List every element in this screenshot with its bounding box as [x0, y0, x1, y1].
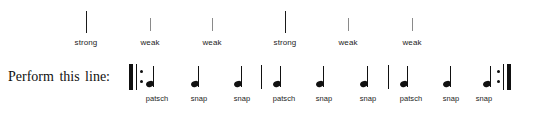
accent-label: strong [274, 38, 297, 47]
accent-tick-weak [150, 18, 151, 31]
accent-tick-strong [285, 11, 286, 33]
accent-tick-weak [348, 18, 349, 31]
note-technique-label: snap [443, 94, 460, 103]
start-repeat-dot-lower [140, 80, 143, 83]
start-repeat-thick-barline [129, 64, 133, 90]
start-repeat-dot-upper [140, 70, 143, 73]
accent-label: weak [202, 38, 221, 47]
note-technique-label: snap [316, 94, 333, 103]
note-technique-label: patsch [146, 94, 169, 103]
accent-label: weak [338, 38, 357, 47]
note-technique-label: snap [476, 94, 493, 103]
end-repeat-dot-upper [497, 70, 500, 73]
accent-tick-weak [212, 18, 213, 31]
measure-barline [261, 65, 262, 89]
accent-label: strong [75, 38, 98, 47]
accent-label: weak [140, 38, 159, 47]
prompt-label: Perform this line: [8, 69, 110, 85]
accent-tick-strong [86, 11, 87, 33]
note-technique-label: patsch [400, 94, 423, 103]
end-repeat-dot-lower [497, 80, 500, 83]
end-repeat-thin-barline [503, 64, 504, 90]
note-technique-label: patsch [273, 94, 296, 103]
end-repeat-thick-barline [507, 64, 511, 90]
note-technique-label: snap [191, 94, 208, 103]
measure-barline [388, 65, 389, 89]
note-technique-label: snap [234, 94, 251, 103]
rhythm-exercise-figure: strongweakweakstrongweakweak Perform thi… [0, 0, 543, 113]
accent-label: weak [402, 38, 421, 47]
accent-tick-weak [412, 18, 413, 31]
start-repeat-thin-barline [136, 64, 137, 90]
note-technique-label: snap [360, 94, 377, 103]
